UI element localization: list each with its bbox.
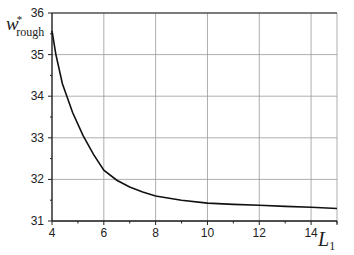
- x-tick-label: 14: [304, 226, 318, 240]
- x-tick-label: 10: [201, 226, 215, 240]
- x-axis-label: L1: [317, 228, 335, 253]
- y-tick-label: 33: [31, 131, 45, 145]
- x-tick-label: 8: [152, 226, 159, 240]
- x-tick-label: 4: [49, 226, 56, 240]
- line-chart: 313233343536468101214 w*rough L1: [0, 0, 354, 255]
- axes: [48, 13, 337, 225]
- x-tick-label: 6: [100, 226, 107, 240]
- x-tick-label: 12: [253, 226, 267, 240]
- data-curve: [52, 31, 337, 209]
- y-tick-label: 35: [31, 48, 45, 62]
- y-tick-label: 31: [31, 214, 45, 228]
- y-tick-label: 32: [31, 172, 45, 186]
- y-tick-label: 34: [31, 89, 45, 103]
- y-tick-label: 36: [31, 6, 45, 20]
- tick-labels: 313233343536468101214: [31, 6, 318, 240]
- grid-lines: [52, 13, 337, 221]
